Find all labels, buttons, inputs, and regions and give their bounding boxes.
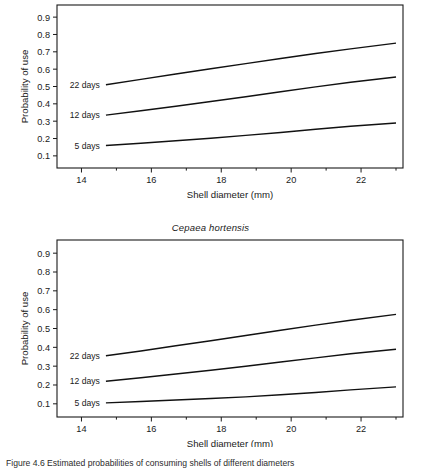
y-axis-tick-label: 0.8 xyxy=(37,267,50,277)
x-axis-tick-label: 14 xyxy=(76,175,86,185)
x-axis-tick-label: 20 xyxy=(286,175,296,185)
x-axis-tick-label: 18 xyxy=(216,424,226,434)
y-axis-tick-label: 0.3 xyxy=(37,362,50,372)
y-axis-tick-label: 0.9 xyxy=(37,13,50,23)
chart-panel-bottom: Cepaea hortensis 0.10.20.30.40.50.60.70.… xyxy=(0,222,421,447)
series-label: 22 days xyxy=(70,351,100,361)
data-curve xyxy=(106,349,396,381)
y-axis-title: Probability of use xyxy=(19,50,30,124)
y-axis-tick-label: 0.6 xyxy=(37,65,50,75)
axes-frame xyxy=(57,5,403,168)
y-axis-tick-label: 0.6 xyxy=(37,305,50,315)
plot-area-bottom: 0.10.20.30.40.50.60.70.80.9141618202222 … xyxy=(0,222,421,447)
x-axis-tick-label: 14 xyxy=(76,424,86,434)
figure-caption: Figure 4.6 Estimated probabilities of co… xyxy=(6,458,415,469)
x-axis-tick-label: 16 xyxy=(146,424,156,434)
x-axis-tick-label: 22 xyxy=(356,424,366,434)
y-axis-tick-label: 0.5 xyxy=(37,82,50,92)
y-axis-title: Probability of use xyxy=(19,292,30,366)
chart-panel-top: 0.10.20.30.40.50.60.70.80.9141618202222 … xyxy=(0,0,421,215)
series-label: 12 days xyxy=(70,110,100,120)
x-axis-title: Shell diameter (mm) xyxy=(187,189,273,200)
y-axis-tick-label: 0.2 xyxy=(37,134,50,144)
series-label: 5 days xyxy=(75,141,100,151)
y-axis-tick-label: 0.7 xyxy=(37,47,50,57)
figure-container: 0.10.20.30.40.50.60.70.80.9141618202222 … xyxy=(0,0,421,469)
x-axis-title: Shell diameter (mm) xyxy=(187,438,273,447)
data-curve xyxy=(106,123,396,146)
x-axis-tick-label: 18 xyxy=(216,175,226,185)
y-axis-tick-label: 0.2 xyxy=(37,380,50,390)
data-curve xyxy=(106,43,396,85)
series-label: 12 days xyxy=(70,376,100,386)
y-axis-tick-label: 0.1 xyxy=(37,399,50,409)
x-axis-tick-label: 22 xyxy=(356,175,366,185)
y-axis-tick-label: 0.1 xyxy=(37,151,50,161)
plot-area-top: 0.10.20.30.40.50.60.70.80.9141618202222 … xyxy=(0,0,421,215)
data-curve xyxy=(106,314,396,355)
data-curve xyxy=(106,77,396,115)
y-axis-tick-label: 0.4 xyxy=(37,99,50,109)
y-axis-tick-label: 0.9 xyxy=(37,249,50,259)
y-axis-tick-label: 0.3 xyxy=(37,117,50,127)
y-axis-tick-label: 0.7 xyxy=(37,286,50,296)
y-axis-tick-label: 0.5 xyxy=(37,324,50,334)
x-axis-tick-label: 20 xyxy=(286,424,296,434)
series-label: 22 days xyxy=(70,80,100,90)
data-curve xyxy=(106,387,396,403)
y-axis-tick-label: 0.8 xyxy=(37,30,50,40)
series-label: 5 days xyxy=(75,398,100,408)
y-axis-tick-label: 0.4 xyxy=(37,343,50,353)
x-axis-tick-label: 16 xyxy=(146,175,156,185)
